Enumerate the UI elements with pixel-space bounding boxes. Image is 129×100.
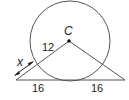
radius-label: 12 xyxy=(42,41,54,53)
left-tangent-label: 16 xyxy=(32,82,44,94)
x-label: x xyxy=(16,55,24,69)
center-point xyxy=(67,39,71,43)
geometry-diagram: C 12 x 16 16 xyxy=(0,0,129,100)
right-side-line xyxy=(69,41,125,80)
right-tangent-label: 16 xyxy=(91,82,103,94)
center-label: C xyxy=(64,24,73,38)
